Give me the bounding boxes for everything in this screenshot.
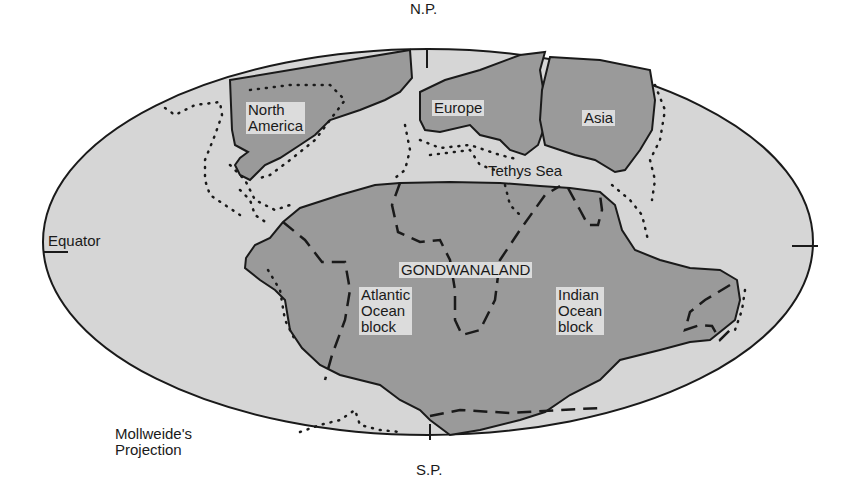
- projection-label: Mollweide's Projection: [115, 426, 192, 458]
- gondwanaland-label: GONDWANALAND: [399, 262, 532, 278]
- equator-label: Equator: [48, 233, 101, 249]
- atlantic-label-line1: Atlantic: [361, 287, 410, 303]
- indian-label-line1: Indian: [558, 287, 602, 303]
- south-pole-label: S.P.: [416, 462, 442, 478]
- projection-label-line2: Projection: [115, 442, 192, 458]
- indian-label-line2: Ocean: [558, 303, 602, 319]
- north-america-label-line1: North: [248, 102, 303, 118]
- north-america-label-line2: America: [248, 118, 303, 134]
- north-pole-label: N.P.: [410, 1, 437, 17]
- atlantic-label-line2: Ocean: [361, 303, 410, 319]
- europe-label: Europe: [432, 100, 484, 116]
- atlantic-label-line3: block: [361, 319, 410, 335]
- mollweide-map: [0, 0, 855, 496]
- indian-ocean-block-label: Indian Ocean block: [556, 287, 604, 335]
- indian-label-line3: block: [558, 319, 602, 335]
- atlantic-ocean-block-label: Atlantic Ocean block: [359, 287, 412, 335]
- asia-label: Asia: [582, 110, 615, 126]
- north-america-label: North America: [246, 102, 305, 134]
- projection-label-line1: Mollweide's: [115, 426, 192, 442]
- tethys-sea-label: Tethys Sea: [488, 163, 562, 179]
